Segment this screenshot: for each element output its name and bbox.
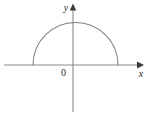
semicircle-curve bbox=[33, 23, 118, 66]
origin-label: 0 bbox=[61, 67, 66, 78]
x-axis-label: x bbox=[138, 68, 144, 79]
coordinate-plot-svg: x y 0 bbox=[0, 0, 153, 119]
figure-canvas: x y 0 bbox=[0, 0, 153, 119]
y-axis-arrow-icon bbox=[70, 4, 76, 11]
y-axis-label: y bbox=[63, 2, 69, 13]
